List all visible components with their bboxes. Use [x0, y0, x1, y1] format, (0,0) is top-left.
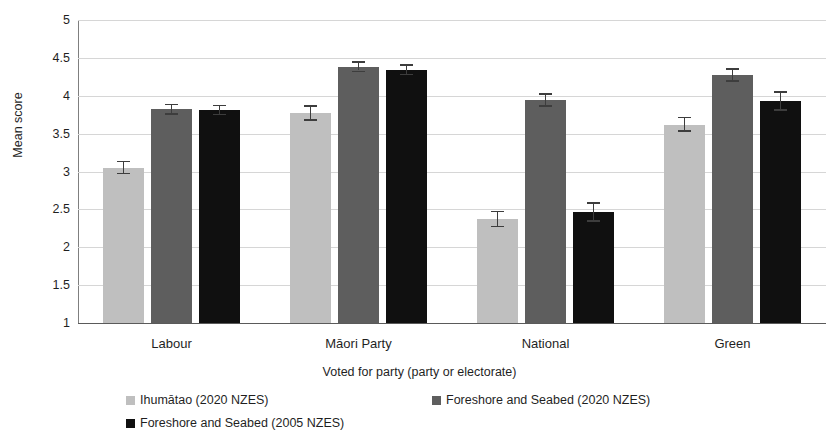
error-bar-cap-top [726, 68, 739, 70]
x-axis-category-label: National [452, 336, 639, 351]
x-axis-category-label: Green [639, 336, 826, 351]
bar-group [477, 20, 614, 323]
legend-swatch [126, 396, 135, 405]
y-axis-tick-label: 4.5 [53, 51, 70, 65]
error-bar-cap-bottom [165, 113, 178, 115]
bar[interactable] [103, 19, 144, 323]
x-axis-category-label: Labour [78, 336, 265, 351]
error-bar-cap-bottom [213, 114, 226, 116]
bar-rect [103, 168, 144, 323]
bar-rect [386, 70, 427, 323]
error-bar [780, 91, 782, 109]
error-bar-cap-top [352, 61, 365, 63]
bar[interactable] [290, 19, 331, 323]
bar[interactable] [199, 19, 240, 323]
bar-rect [525, 100, 566, 323]
bar-rect [712, 75, 753, 323]
error-bar-cap-bottom [304, 119, 317, 121]
bar-group [103, 20, 240, 323]
error-bar-cap-bottom [587, 220, 600, 222]
legend-label: Foreshore and Seabed (2005 NZES) [140, 416, 344, 430]
error-bar [684, 117, 686, 131]
bar-rect [760, 101, 801, 323]
error-bar [497, 211, 499, 226]
legend-item[interactable]: Foreshore and Seabed (2020 NZES) [432, 393, 650, 407]
bar-rect [664, 125, 705, 323]
error-bar-cap-bottom [400, 74, 413, 76]
error-bar [310, 105, 312, 119]
legend-swatch [432, 396, 441, 405]
y-axis-tick-label: 3.5 [53, 127, 70, 141]
y-axis-tick-label: 4 [63, 89, 70, 103]
error-bar-cap-bottom [491, 226, 504, 228]
error-bar-cap-top [117, 161, 130, 163]
error-bar-cap-top [678, 117, 691, 119]
error-bar-cap-top [400, 64, 413, 66]
bar-rect [290, 113, 331, 323]
error-bar-cap-top [304, 105, 317, 107]
legend-item[interactable]: Ihumātao (2020 NZES) [126, 393, 269, 407]
bar-rect [573, 212, 614, 323]
bar-chart: Mean score 54.543.532.521.51 LabourMāori… [0, 0, 839, 441]
y-axis-tick-label: 3 [63, 165, 70, 179]
error-bar-cap-top [491, 211, 504, 213]
legend-swatch [126, 419, 135, 428]
legend-label: Foreshore and Seabed (2020 NZES) [446, 393, 650, 407]
x-axis-category-label: Māori Party [265, 336, 452, 351]
plot-area [78, 20, 826, 324]
bar[interactable] [573, 19, 614, 323]
y-axis-tick-label: 1 [63, 316, 70, 330]
chart-legend: Ihumātao (2020 NZES)Foreshore and Seabed… [0, 391, 839, 439]
x-axis-line [78, 323, 826, 324]
error-bar-cap-top [165, 104, 178, 106]
error-bar-cap-bottom [774, 109, 787, 111]
bar[interactable] [386, 19, 427, 323]
error-bar-cap-bottom [539, 105, 552, 107]
error-bar-cap-bottom [678, 130, 691, 132]
bar[interactable] [525, 19, 566, 323]
error-bar-cap-top [213, 105, 226, 107]
bar-rect [151, 109, 192, 323]
legend-label: Ihumātao (2020 NZES) [140, 393, 269, 407]
bar[interactable] [664, 19, 705, 323]
error-bar-cap-bottom [352, 71, 365, 73]
legend-item[interactable]: Foreshore and Seabed (2005 NZES) [126, 416, 344, 430]
bar-rect [199, 110, 240, 323]
bar[interactable] [151, 19, 192, 323]
bar-rect [477, 219, 518, 323]
bar[interactable] [338, 19, 379, 323]
error-bar-cap-top [587, 202, 600, 204]
y-axis-tick-label: 5 [63, 13, 70, 27]
bar-group [290, 20, 427, 323]
y-axis-tick-label: 2 [63, 240, 70, 254]
y-axis-tick-label: 2.5 [53, 202, 70, 216]
error-bar [123, 161, 125, 173]
bar-rect [338, 67, 379, 323]
error-bar-cap-bottom [726, 80, 739, 82]
error-bar-cap-top [774, 91, 787, 93]
error-bar [732, 68, 734, 80]
error-bar-cap-bottom [117, 173, 130, 175]
bar[interactable] [712, 19, 753, 323]
x-axis-title: Voted for party (party or electorate) [0, 365, 839, 379]
bar[interactable] [477, 19, 518, 323]
bar-group [664, 20, 801, 323]
y-axis-tick-label: 1.5 [53, 278, 70, 292]
bar[interactable] [760, 19, 801, 323]
y-axis-tick-labels: 54.543.532.521.51 [0, 20, 78, 324]
error-bar [593, 202, 595, 220]
error-bar-cap-top [539, 93, 552, 95]
error-bar [545, 93, 547, 105]
